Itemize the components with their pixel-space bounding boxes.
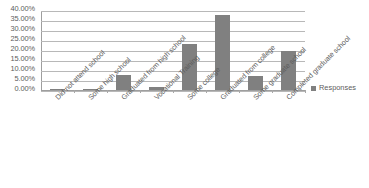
gridline bbox=[41, 21, 305, 22]
bar bbox=[215, 15, 230, 90]
y-axis-labels: 40.00%35.00%30.00%25.00%20.00%15.00%10.0… bbox=[0, 8, 38, 92]
y-axis-tick-label: 40.00% bbox=[11, 5, 35, 12]
y-axis-tick-label: 35.00% bbox=[11, 15, 35, 22]
gridline bbox=[41, 31, 305, 32]
x-axis-category-labels: Did not attend schoolSome high schoolGra… bbox=[41, 92, 341, 188]
y-axis-tick-label: 10.00% bbox=[11, 65, 35, 72]
gridline bbox=[41, 61, 305, 62]
chart-title bbox=[0, 0, 310, 3]
y-axis-tick-label: 5.00% bbox=[15, 75, 35, 82]
legend-label-responses: Responses bbox=[319, 84, 356, 92]
y-axis-tick-label: 25.00% bbox=[11, 35, 35, 42]
chart-legend: Responses bbox=[311, 84, 356, 92]
y-axis-tick-label: 20.00% bbox=[11, 45, 35, 52]
y-axis-tick-label: 30.00% bbox=[11, 25, 35, 32]
y-axis-tick-label: 0.00% bbox=[15, 85, 35, 92]
bar-chart: 40.00%35.00%30.00%25.00%20.00%15.00%10.0… bbox=[0, 0, 369, 188]
gridline bbox=[41, 11, 305, 12]
legend-swatch-responses bbox=[311, 86, 316, 91]
y-axis-tick-label: 15.00% bbox=[11, 55, 35, 62]
